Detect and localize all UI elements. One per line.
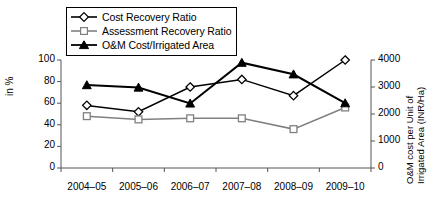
x-axis-tick-label: 2009–10 <box>319 181 371 192</box>
data-point-marker <box>83 113 90 120</box>
y-axis-tick-label: 80 <box>17 75 55 86</box>
legend-item-assessment-recovery-ratio[interactable]: Assessment Recovery Ratio <box>71 24 231 38</box>
legend-label: Assessment Recovery Ratio <box>102 25 231 37</box>
y2-axis-tick-label: 0 <box>378 161 384 172</box>
y-axis-tick-label: 100 <box>17 53 55 64</box>
data-point-marker <box>290 126 297 133</box>
right-axis-title-line2: Irrigated Area (INR/Ha) <box>415 87 426 184</box>
legend-label: Cost Recovery Ratio <box>102 11 196 23</box>
y2-axis-tick-label: 1000 <box>378 134 400 145</box>
y-axis-tick-label: 40 <box>17 118 55 129</box>
open-diamond-marker-icon <box>71 11 97 23</box>
legend-item-om-cost-irrigated-area[interactable]: O&M Cost/Irrigated Area <box>71 38 231 52</box>
data-point-marker <box>237 58 246 66</box>
legend-label: O&M Cost/Irrigated Area <box>102 39 214 51</box>
series-2 <box>82 58 349 107</box>
data-point-marker <box>186 83 194 91</box>
chart-legend: Cost Recovery Ratio Assessment Recovery … <box>66 7 237 56</box>
data-point-marker <box>238 75 246 83</box>
right-axis-title: O&M cost per Unit of Irrigated Area (INR… <box>404 87 426 184</box>
x-axis-tick-label: 2007–08 <box>216 181 268 192</box>
y2-axis-tick-label: 4000 <box>378 53 400 64</box>
y-axis-tick-label: 0 <box>17 161 55 172</box>
x-axis-tick-label: 2006–07 <box>164 181 216 192</box>
open-square-marker-icon <box>71 25 97 37</box>
data-point-marker <box>135 116 142 123</box>
data-point-marker <box>341 99 350 107</box>
left-axis-title: in % <box>4 77 15 96</box>
legend-item-cost-recovery-ratio[interactable]: Cost Recovery Ratio <box>71 10 231 24</box>
x-axis-tick-label: 2008–09 <box>268 181 320 192</box>
data-point-marker <box>134 108 142 116</box>
data-point-marker <box>238 115 245 122</box>
chart-container: in % O&M cost per Unit of Irrigated Area… <box>0 0 438 200</box>
data-point-marker <box>83 101 91 109</box>
right-axis-title-line1: O&M cost per Unit of <box>404 87 415 184</box>
x-axis-tick-label: 2005–06 <box>113 181 165 192</box>
y-axis-tick-label: 60 <box>17 96 55 107</box>
y-axis-tick-label: 20 <box>17 139 55 150</box>
data-point-marker <box>187 115 194 122</box>
series-1 <box>83 104 348 132</box>
y2-axis-tick-label: 2000 <box>378 107 400 118</box>
y2-axis-tick-label: 3000 <box>378 80 400 91</box>
x-axis-tick-label: 2004–05 <box>61 181 113 192</box>
filled-triangle-marker-icon <box>71 39 97 51</box>
